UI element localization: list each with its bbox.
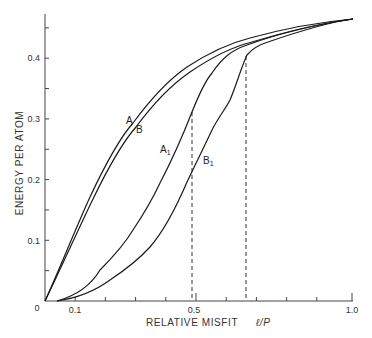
y-tick-label-0.2: 0.2: [27, 175, 40, 185]
y-axis-ticks: [45, 28, 49, 271]
curve-label-a1: A1: [160, 144, 171, 156]
x-tick-label-0.5: 0.5: [188, 305, 201, 315]
y-tick-label-0.4: 0.4: [27, 53, 40, 63]
y-tick-label-0.3: 0.3: [27, 114, 40, 124]
x-axis-title: RELATIVE MISFIT: [146, 317, 238, 328]
energy-misfit-chart: 0.4 0.3 0.2 0.1 0 0.1 0.5 1.0 ENERGY PER…: [0, 0, 372, 338]
x-tick-label-0.1: 0.1: [69, 305, 82, 315]
x-axis-symbol: ℓ/P: [255, 317, 270, 328]
curve-label-a: A: [126, 115, 133, 126]
x-axis-ticks: [75, 293, 352, 301]
curve-a: [45, 19, 353, 301]
origin-label: 0: [34, 303, 39, 313]
y-axis-title: ENERGY PER ATOM: [14, 111, 25, 216]
x-tick-label-1.0: 1.0: [346, 305, 359, 315]
curve-label-b: B: [136, 124, 143, 135]
curve-b: [45, 19, 353, 301]
y-tick-label-0.1: 0.1: [27, 236, 40, 246]
curve-label-b1: B1: [203, 155, 214, 167]
